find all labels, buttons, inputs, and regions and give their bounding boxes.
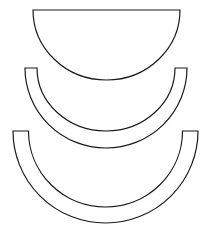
diagram-canvas bbox=[0, 0, 203, 231]
semicircle-diagram bbox=[0, 0, 203, 231]
half-disc-shape bbox=[33, 10, 180, 80]
